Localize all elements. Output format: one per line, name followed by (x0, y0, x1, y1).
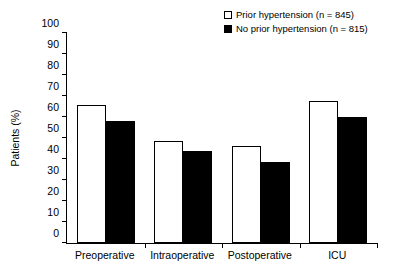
bar-preoperative-series-2 (106, 121, 135, 243)
x-axis-tick-label: ICU (328, 249, 346, 261)
legend-item-label: Prior hypertension (n = 845) (236, 10, 354, 20)
bar-postoperative-series-1 (232, 146, 261, 243)
bar-chart: Prior hypertension (n = 845) No prior hy… (0, 0, 393, 276)
y-axis-tick (62, 179, 67, 180)
x-axis-tick-label: Preoperative (75, 249, 135, 261)
y-axis-tick (62, 200, 67, 201)
bar-preoperative-series-1 (77, 105, 106, 243)
x-axis-separator (222, 243, 223, 248)
x-axis-tick-label: Intraoperative (150, 249, 214, 261)
y-axis-tick (62, 53, 67, 54)
y-axis-tick-label: 70 (47, 81, 59, 91)
plot-area: 0102030405060708090100 (66, 33, 377, 244)
chart-legend: Prior hypertension (n = 845) No prior hy… (224, 9, 368, 35)
y-axis-tick (62, 116, 67, 117)
x-axis-tick-label: Postoperative (228, 249, 292, 261)
x-axis-end-tick (377, 243, 378, 248)
y-axis-tick-label: 10 (47, 207, 59, 217)
y-axis-tick-label: 40 (47, 144, 59, 154)
y-axis-tick-label: 90 (47, 39, 59, 49)
bar-intraoperative-series-1 (154, 141, 183, 243)
y-axis-tick (62, 74, 67, 75)
y-axis-tick-label: 50 (47, 123, 59, 133)
y-axis-tick (62, 158, 67, 159)
y-axis-tick (62, 32, 67, 33)
bar-intraoperative-series-2 (183, 151, 212, 243)
legend-item-prior-hypertension: Prior hypertension (n = 845) (224, 9, 368, 21)
y-axis-title: Patients (%) (4, 0, 26, 276)
y-axis-tick (62, 242, 67, 243)
y-axis-tick (62, 137, 67, 138)
y-axis-tick-label: 100 (41, 18, 59, 28)
y-axis-tick-label: 20 (47, 186, 59, 196)
y-axis-tick-label: 60 (47, 102, 59, 112)
y-axis-title-text: Patients (%) (9, 109, 21, 166)
y-axis-tick (62, 221, 67, 222)
x-axis-separator (300, 243, 301, 248)
y-axis-tick-label: 30 (47, 165, 59, 175)
bar-icu-series-1 (309, 101, 338, 243)
filled-square-icon (224, 25, 232, 33)
open-square-icon (224, 11, 232, 19)
y-axis-tick (62, 95, 67, 96)
y-axis-tick-label: 80 (47, 60, 59, 70)
bar-postoperative-series-2 (261, 162, 290, 243)
y-axis-tick-label: 0 (53, 228, 59, 238)
x-axis-separator (145, 243, 146, 248)
bar-icu-series-2 (338, 117, 367, 243)
